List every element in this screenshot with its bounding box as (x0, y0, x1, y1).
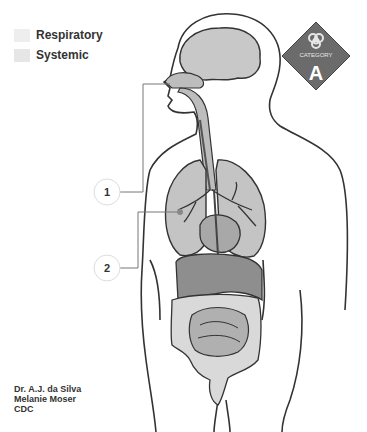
svg-text:A: A (309, 62, 323, 84)
credit-illustrator: Melanie Moser (14, 394, 81, 404)
anatomy-diagram: 1 2 CATEGORY A (0, 0, 367, 432)
callout-2: 2 (94, 255, 120, 281)
small-intestine (189, 308, 248, 357)
brain (180, 28, 260, 80)
svg-text:1: 1 (104, 186, 110, 198)
callout-dot (177, 209, 183, 215)
credits: Dr. A.J. da Silva Melanie Moser CDC (14, 384, 81, 414)
svg-text:CATEGORY: CATEGORY (299, 52, 332, 58)
credit-author: Dr. A.J. da Silva (14, 384, 81, 394)
left-lung (166, 160, 206, 256)
liver (176, 254, 262, 300)
heart (200, 215, 240, 252)
category-a-badge: CATEGORY A (282, 22, 350, 90)
callout-1: 1 (94, 179, 120, 205)
credit-org: CDC (14, 404, 81, 414)
svg-text:2: 2 (104, 262, 110, 274)
